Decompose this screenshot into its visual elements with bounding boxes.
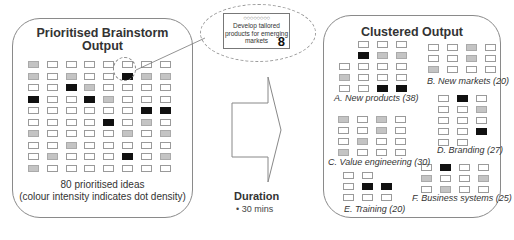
idea-cell [421,175,432,182]
idea-cell [362,172,373,179]
duration-value: 30 mins [242,204,274,214]
duration-heading: Duration [234,190,279,202]
idea-cell [381,183,392,190]
idea-cell [358,41,369,48]
idea-cell [466,44,477,51]
idea-cell [376,149,387,156]
idea-cell [457,117,468,124]
idea-cell [343,194,354,201]
idea-cell [459,186,470,193]
idea-cell [485,66,496,73]
cluster-label-d: D. Branding (27) [437,145,503,155]
idea-cell [438,128,449,135]
idea-cell [376,116,387,123]
idea-cell [478,186,489,193]
idea-cell [478,164,489,171]
idea-cell [339,63,350,70]
cluster-label-a: A. New products (38) [334,93,419,103]
idea-cell [376,127,387,134]
idea-cell [377,85,388,92]
panel-title: Clustered Output [324,26,500,39]
idea-cell [466,55,477,62]
idea-cell [457,106,468,113]
idea-cell [358,74,369,81]
idea-cell [339,85,350,92]
idea-cell [358,63,369,70]
idea-cell [338,127,349,134]
idea-cell [338,149,349,156]
cluster-label-c: C. Value engineering (30) [328,157,430,167]
idea-cell [376,138,387,145]
idea-cell [428,44,439,51]
idea-cell [438,106,449,113]
idea-cell [395,138,406,145]
idea-cell [421,186,432,193]
idea-cell [476,128,487,135]
idea-cell [459,164,470,171]
idea-cell [357,149,368,156]
cluster-label-b: B. New markets (20) [427,76,509,86]
idea-cell [478,175,489,182]
idea-cell [396,52,407,59]
idea-cell [438,117,449,124]
idea-cell [476,106,487,113]
idea-cell [396,41,407,48]
idea-cell [440,186,451,193]
idea-cell [395,127,406,134]
idea-cell [428,55,439,62]
idea-cell [377,74,388,81]
idea-cell [428,66,439,73]
idea-cell [396,74,407,81]
idea-cell [358,85,369,92]
idea-cell [338,138,349,145]
idea-cell [343,172,354,179]
cluster-label-f: F. Business systems (25) [412,193,512,203]
idea-cell [362,194,373,201]
idea-cell [447,55,458,62]
idea-cell [381,194,392,201]
idea-cell [377,52,388,59]
idea-cell [395,116,406,123]
idea-cell [396,63,407,70]
idea-cell [485,55,496,62]
idea-cell [377,41,388,48]
idea-cell [338,116,349,123]
idea-cell [457,95,468,102]
idea-cell [357,138,368,145]
idea-cell [440,175,451,182]
idea-cell [396,85,407,92]
idea-cell [440,164,451,171]
idea-cell [447,66,458,73]
idea-cell [476,95,487,102]
idea-cell [466,66,477,73]
idea-cell [357,127,368,134]
duration-item: • 30 mins [236,204,273,214]
idea-cell [362,183,373,190]
idea-cell [438,95,449,102]
idea-cell [357,116,368,123]
idea-cell [447,44,458,51]
idea-cell [343,183,354,190]
idea-cell [358,52,369,59]
idea-cell [485,44,496,51]
idea-cell [476,117,487,124]
cluster-label-e: E. Training (20) [344,204,405,214]
idea-cell [339,74,350,81]
idea-cell [457,128,468,135]
idea-cell [459,175,470,182]
idea-cell [395,149,406,156]
idea-cell [377,63,388,70]
